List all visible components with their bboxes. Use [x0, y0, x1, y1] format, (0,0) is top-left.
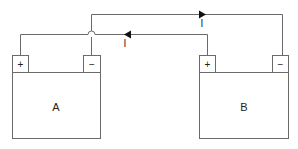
- battery-b-plus-sign: +: [205, 59, 211, 70]
- battery-a-minus-sign: −: [89, 59, 95, 70]
- circuit-diagram: I I + − A + − B: [0, 0, 298, 149]
- battery-b: + − B: [200, 56, 289, 139]
- battery-b-minus-sign: −: [278, 59, 284, 70]
- battery-a: + − A: [13, 56, 101, 139]
- battery-a-label: A: [52, 101, 60, 113]
- current-label-lower: I: [124, 38, 127, 49]
- battery-a-plus-sign: +: [18, 59, 24, 70]
- battery-b-label: B: [240, 101, 247, 113]
- current-label-top: I: [201, 18, 204, 29]
- lower-wire: [21, 31, 208, 55]
